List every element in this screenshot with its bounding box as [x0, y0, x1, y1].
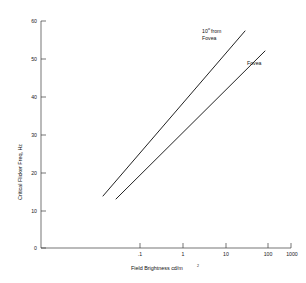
y-tick-label-0: 0	[34, 245, 37, 251]
x-axis-title-text: Field Brightness cd/m	[131, 265, 183, 271]
x-tick-label-1: 1	[182, 251, 185, 257]
x-tick-label-10: 10	[223, 251, 229, 257]
fovea-label: Fovea	[247, 60, 262, 66]
x-tick-label-0-1: .1	[138, 251, 142, 257]
y-tick-label-40: 40	[31, 94, 37, 100]
series-annotation-fovea: Fovea	[247, 60, 262, 66]
x-axis-tick-labels: .1 1 10 100 1000	[138, 251, 298, 257]
series-annotation-peripheral: 10 o from Fovea	[202, 27, 221, 41]
axis-lines	[41, 21, 291, 248]
chart-canvas: 60 50 40 30 20 10 0 .1 1 10 100 1000 Fie…	[0, 0, 306, 283]
peripheral-label-from: from	[211, 28, 221, 34]
y-tick-label-30: 30	[31, 132, 37, 138]
x-axis-ticks	[140, 243, 291, 248]
y-tick-label-10: 10	[31, 208, 37, 214]
series-line-peripheral	[103, 31, 245, 196]
y-tick-label-50: 50	[31, 56, 37, 62]
y-axis-ticks	[41, 21, 46, 248]
y-axis-title-text: Critical Flicker Freq, Hz	[17, 144, 23, 200]
peripheral-label-degree-superscript: o	[208, 27, 210, 31]
x-axis-title-superscript: 2	[197, 264, 199, 268]
x-axis-title: Field Brightness cd/m 2	[131, 264, 199, 271]
x-tick-label-1000: 1000	[286, 251, 298, 257]
peripheral-label-base: 10	[202, 28, 208, 34]
y-axis-title: Critical Flicker Freq, Hz	[17, 144, 23, 200]
peripheral-label-line2: Fovea	[202, 35, 217, 41]
y-axis-tick-labels: 60 50 40 30 20 10 0	[31, 18, 37, 251]
series-line-fovea	[116, 51, 265, 199]
y-tick-label-20: 20	[31, 170, 37, 176]
y-tick-label-60: 60	[31, 18, 37, 24]
x-tick-label-100: 100	[264, 251, 273, 257]
cff-vs-field-brightness-figure: 60 50 40 30 20 10 0 .1 1 10 100 1000 Fie…	[0, 0, 306, 283]
